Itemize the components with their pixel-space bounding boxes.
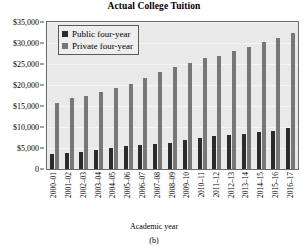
bar-public bbox=[79, 152, 83, 169]
legend-item: Private four-year bbox=[62, 40, 133, 52]
y-tick-mark bbox=[40, 64, 44, 65]
x-tick-label: 2000–01 bbox=[49, 172, 58, 198]
bar-public bbox=[50, 154, 54, 169]
bar-public bbox=[109, 148, 113, 169]
bar-private bbox=[276, 38, 280, 169]
x-tick-label: 2001–02 bbox=[64, 172, 73, 198]
bar-public bbox=[271, 131, 275, 169]
bar-private bbox=[247, 47, 251, 169]
x-axis: 2000–012001–022002–032003–042004–052005–… bbox=[46, 172, 299, 220]
chart-legend: Public four-yearPrivate four-year bbox=[58, 25, 139, 55]
bar-public bbox=[183, 140, 187, 169]
bar-public bbox=[65, 153, 69, 169]
bar-private bbox=[158, 72, 162, 169]
bar-private bbox=[262, 42, 266, 169]
x-tick-label: 2008–09 bbox=[168, 172, 177, 198]
x-tick-label: 2012–13 bbox=[227, 172, 236, 198]
bar-private bbox=[203, 58, 207, 169]
legend-item: Public four-year bbox=[62, 28, 133, 40]
bar-private bbox=[114, 88, 118, 169]
y-tick-label: $15,000 bbox=[13, 102, 39, 111]
bar-private bbox=[84, 96, 88, 170]
bar-group bbox=[195, 22, 210, 169]
bar-public bbox=[212, 136, 216, 169]
x-tick-label: 2009–10 bbox=[182, 172, 191, 198]
bar-public bbox=[153, 144, 157, 169]
y-tick-label: $25,000 bbox=[13, 60, 39, 69]
legend-label: Public four-year bbox=[72, 30, 131, 39]
bar-group bbox=[268, 22, 283, 169]
bar-public bbox=[124, 146, 128, 169]
bar-private bbox=[188, 63, 192, 169]
bar-public bbox=[138, 145, 142, 169]
bar-private bbox=[143, 78, 147, 169]
y-tick-mark bbox=[40, 148, 44, 149]
y-tick-label: $5,000 bbox=[17, 144, 39, 153]
x-tick-label: 2004–05 bbox=[108, 172, 117, 198]
x-tick-label: 2006–07 bbox=[138, 172, 147, 198]
bar-private bbox=[55, 103, 59, 169]
x-tick-label: 2014–15 bbox=[256, 172, 265, 198]
x-tick-label: 2015–16 bbox=[271, 172, 280, 198]
legend-swatch-icon bbox=[62, 43, 68, 49]
bar-group bbox=[209, 22, 224, 169]
x-tick-label: 2016–17 bbox=[286, 172, 295, 198]
bar-private bbox=[173, 67, 177, 169]
y-tick-mark bbox=[40, 106, 44, 107]
bar-group bbox=[180, 22, 195, 169]
y-tick-label: $30,000 bbox=[13, 39, 39, 48]
bar-private bbox=[217, 56, 221, 169]
bar-public bbox=[94, 150, 98, 169]
bar-public bbox=[168, 143, 172, 169]
x-tick-label: 2007–08 bbox=[153, 172, 162, 198]
bar-private bbox=[70, 98, 74, 169]
y-tick-mark bbox=[40, 127, 44, 128]
bar-group bbox=[165, 22, 180, 169]
bar-group bbox=[224, 22, 239, 169]
x-tick-label: 2011–12 bbox=[212, 172, 221, 198]
figure-caption: (b) bbox=[0, 236, 308, 245]
bar-public bbox=[257, 132, 261, 169]
bar-group bbox=[283, 22, 298, 169]
y-tick-mark bbox=[40, 43, 44, 44]
legend-label: Private four-year bbox=[72, 42, 133, 51]
y-tick-label: $20,000 bbox=[13, 81, 39, 90]
bar-public bbox=[198, 138, 202, 169]
y-axis: 0$5,000$10,000$15,000$20,000$25,000$30,0… bbox=[0, 21, 44, 170]
bar-public bbox=[286, 128, 290, 169]
bar-private bbox=[291, 33, 295, 169]
x-tick-label: 2005–06 bbox=[123, 172, 132, 198]
y-tick-label: 0 bbox=[35, 165, 39, 174]
x-tick-label: 2003–04 bbox=[94, 172, 103, 198]
bar-public bbox=[227, 135, 231, 169]
x-tick-label: 2010–11 bbox=[197, 172, 206, 198]
x-tick-label: 2013–14 bbox=[241, 172, 250, 198]
bar-private bbox=[129, 84, 133, 169]
legend-swatch-icon bbox=[62, 31, 68, 37]
y-tick-mark bbox=[40, 85, 44, 86]
bar-group bbox=[254, 22, 269, 169]
bar-private bbox=[99, 92, 103, 169]
x-tick-label: 2002–03 bbox=[79, 172, 88, 198]
y-tick-label: $35,000 bbox=[13, 18, 39, 27]
y-tick-mark bbox=[40, 22, 44, 23]
y-tick-mark bbox=[40, 169, 44, 170]
bar-group bbox=[150, 22, 165, 169]
chart-title: Actual College Tuition bbox=[0, 1, 308, 11]
chart-figure: Actual College Tuition 0$5,000$10,000$15… bbox=[0, 0, 308, 251]
x-axis-title: Academic year bbox=[0, 222, 308, 231]
bar-public bbox=[242, 134, 246, 169]
bar-private bbox=[232, 51, 236, 169]
bar-group bbox=[239, 22, 254, 169]
y-tick-label: $10,000 bbox=[13, 123, 39, 132]
